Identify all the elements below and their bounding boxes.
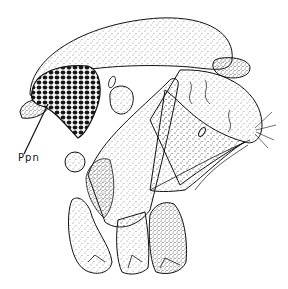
label-ppn: Ppn <box>18 152 40 163</box>
compound-eye <box>31 66 100 138</box>
insect-illustration: Ppn <box>0 0 288 289</box>
